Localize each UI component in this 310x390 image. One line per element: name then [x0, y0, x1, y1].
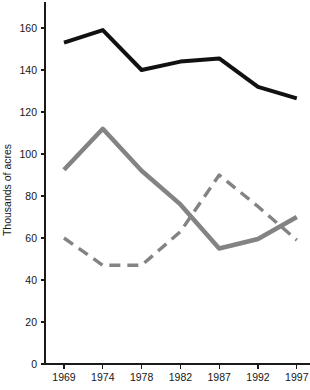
x-tick-label: 1974 — [91, 371, 115, 383]
chart-container: 020406080100120140160 196919741978198219… — [0, 0, 310, 390]
y-axis-ticks: 020406080100120140160 — [19, 22, 45, 370]
x-axis-ticks: 1969197419781982198719921997 — [52, 364, 308, 383]
x-tick-label: 1987 — [208, 371, 232, 383]
series-black-solid-series — [64, 30, 297, 98]
data-series-group — [64, 30, 297, 265]
line-chart-plot: 020406080100120140160 196919741978198219… — [0, 0, 310, 390]
axes-group — [45, 2, 310, 364]
x-tick-label: 1997 — [285, 371, 309, 383]
y-tick-label: 140 — [19, 64, 37, 76]
x-tick-label: 1978 — [130, 371, 154, 383]
y-tick-label: 40 — [25, 274, 37, 286]
x-tick-label: 1992 — [246, 371, 270, 383]
y-tick-label: 100 — [19, 148, 37, 160]
y-tick-label: 80 — [25, 190, 37, 202]
y-tick-label: 60 — [25, 232, 37, 244]
series-gray-solid-series — [64, 129, 297, 249]
series-gray-dashed-series — [64, 175, 297, 265]
y-axis-title: Thousands of acres — [1, 144, 13, 236]
y-tick-label: 0 — [31, 358, 37, 370]
x-tick-label: 1969 — [52, 371, 76, 383]
y-tick-label: 20 — [25, 316, 37, 328]
y-tick-label: 160 — [19, 22, 37, 34]
y-tick-label: 120 — [19, 106, 37, 118]
x-tick-label: 1982 — [169, 371, 193, 383]
